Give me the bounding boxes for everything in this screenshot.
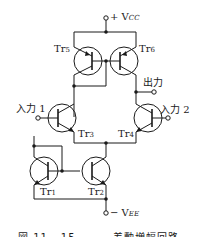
input1-terminal xyxy=(36,116,40,120)
output-label: 出力 xyxy=(143,78,163,88)
tr4-label: Tr4 xyxy=(118,129,134,139)
junction-dot xyxy=(104,141,108,145)
output-terminal xyxy=(152,90,156,94)
vee-terminal xyxy=(104,211,108,215)
tr2-label: Tr2 xyxy=(88,187,104,197)
input1-label: 入力 1 xyxy=(16,104,46,114)
tr3-label: Tr3 xyxy=(78,129,94,139)
input2-terminal xyxy=(166,116,170,120)
circuit-diagram xyxy=(0,0,198,237)
vcc-label: + VCC xyxy=(110,12,140,22)
tr5-label: Tr5 xyxy=(54,44,70,54)
vcc-terminal xyxy=(104,16,108,20)
junction-dot xyxy=(104,59,108,63)
tr6-emitter-arrow-icon xyxy=(122,51,127,56)
figure-caption: 図 11 - 15 差動増幅回路 xyxy=(18,229,179,237)
tr5-emitter-arrow-icon xyxy=(85,51,90,56)
vee-label: − VEE xyxy=(110,208,139,218)
junction-dot xyxy=(32,144,36,148)
junction-dot xyxy=(104,30,108,34)
tr1-label: Tr1 xyxy=(40,187,56,197)
input2-label: 入力 2 xyxy=(160,105,190,115)
junction-dot xyxy=(72,84,76,88)
tr6-label: Tr6 xyxy=(139,44,155,54)
junction-dot xyxy=(104,197,108,201)
junction-dot xyxy=(134,90,138,94)
junction-dot xyxy=(60,169,64,173)
